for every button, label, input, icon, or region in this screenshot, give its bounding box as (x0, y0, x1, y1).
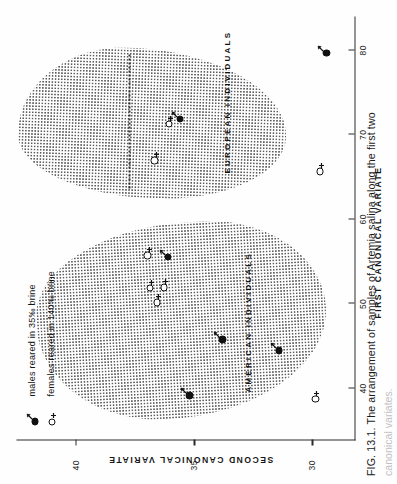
female-symbol-icon (153, 296, 163, 306)
y-axis-tick (193, 439, 194, 445)
caption-text-part-2: along the first two (365, 112, 377, 198)
figure-caption-block: FIG. 13.1. The arrangement of samples of… (365, 0, 395, 484)
female-symbol-icon (150, 154, 160, 164)
legend-label: males reared in 35‰ brine (26, 284, 36, 396)
y-axis-line (16, 439, 355, 440)
male-symbol-icon (273, 344, 283, 354)
female-symbol-icon (160, 281, 170, 291)
male-filled-circle-icon (28, 410, 40, 426)
female-symbol-icon (48, 415, 58, 425)
y-axis-tick-label: 30 (306, 460, 316, 470)
male-symbol-icon (184, 389, 194, 399)
male-symbol-icon (217, 333, 227, 343)
figure-page: 4050607080 403530 FIRST CANONICAL VARIAT… (0, 0, 397, 484)
female-symbol-icon (146, 281, 156, 291)
european-cluster-divider-line (128, 54, 130, 188)
female-symbol-icon (165, 118, 175, 128)
x-axis-tick (348, 218, 354, 219)
female-symbol-icon (311, 392, 321, 402)
caption-figure-number: FIG. 13.1. (365, 427, 377, 476)
cluster-label-american: AMERICAN INDIVIDUALS (243, 252, 252, 392)
y-axis-tick (75, 439, 76, 445)
rotated-figure-canvas: 4050607080 403530 FIRST CANONICAL VARIAT… (0, 0, 397, 484)
y-axis-tick-label: 40 (70, 460, 80, 470)
male-symbol-icon (321, 47, 331, 57)
legend-label: females reared in 140‰ brine (45, 270, 55, 396)
y-axis-title: SECOND CANONICAL VARIATE (107, 454, 272, 464)
female-open-circle-icon (47, 410, 59, 426)
scatter-plot: 4050607080 403530 FIRST CANONICAL VARIAT… (0, 0, 397, 484)
x-axis-tick (348, 133, 354, 134)
x-axis-tick (348, 387, 354, 388)
female-symbol-icon (143, 249, 153, 259)
cluster-envelope-european (15, 43, 288, 202)
male-symbol-icon (174, 112, 184, 122)
figure-caption-line-2: canonical variates. (382, 388, 394, 476)
y-axis-tick (311, 439, 312, 445)
figure-caption-line-1: FIG. 13.1. The arrangement of samples of… (365, 112, 377, 476)
male-symbol-icon (29, 415, 39, 425)
x-axis-tick (348, 302, 354, 303)
x-axis-tick (348, 49, 354, 50)
cluster-label-european: EUROPEAN INDIVIDUALS (222, 30, 231, 173)
caption-text-part-1: The arrangement of samples of (365, 273, 377, 425)
x-axis-line (354, 16, 355, 440)
female-symbol-icon (316, 165, 326, 175)
caption-species-name: Artemia salina (365, 201, 377, 270)
male-symbol-icon (162, 250, 172, 260)
